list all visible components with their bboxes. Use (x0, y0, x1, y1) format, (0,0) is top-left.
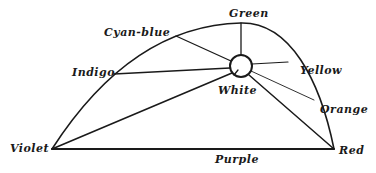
label-purple: Purple (214, 153, 259, 166)
label-green: Green (229, 7, 269, 20)
label-cyan-blue: Cyan-blue (104, 26, 170, 39)
color-diagram: Green Cyan-blue Indigo Yellow White Oran… (0, 0, 376, 173)
label-indigo: Indigo (71, 66, 115, 79)
white-inner-tick (234, 70, 238, 75)
label-white: White (218, 84, 257, 97)
spectral-curve (52, 23, 334, 149)
label-orange: Orange (320, 103, 368, 116)
label-violet: Violet (10, 142, 49, 155)
yellow-to-white-line (252, 62, 288, 64)
indigo-to-white-line (114, 68, 230, 74)
white-point-circle (230, 55, 252, 77)
label-red: Red (338, 144, 364, 157)
label-yellow: Yellow (300, 64, 342, 77)
cyan-blue-to-white-line (176, 36, 231, 61)
